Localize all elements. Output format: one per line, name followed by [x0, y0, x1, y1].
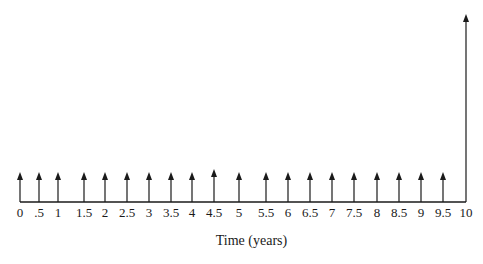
cash-flow-arrow [168, 172, 174, 202]
cash-flow-arrow [374, 172, 380, 202]
cash-flow-arrow [440, 172, 446, 202]
tick-label: 7.5 [346, 205, 362, 221]
cash-flow-arrow [285, 172, 291, 202]
cash-flow-arrow [236, 172, 242, 202]
tick-label: 2.5 [119, 205, 135, 221]
arrow-head-icon [396, 172, 402, 180]
cash-flow-arrow [102, 172, 108, 202]
cash-flow-arrow [418, 172, 424, 202]
cash-flow-arrow [36, 172, 42, 202]
tick-label: 0 [17, 205, 24, 221]
tick-label: 9 [418, 205, 425, 221]
cash-flow-arrow [146, 172, 152, 202]
arrow-head-icon [55, 172, 61, 180]
cash-flow-svg [0, 0, 483, 264]
arrow-head-icon [36, 172, 42, 180]
arrow-head-icon [211, 169, 217, 177]
arrow-head-icon [463, 14, 469, 22]
arrow-head-icon [146, 172, 152, 180]
arrow-head-icon [17, 172, 23, 180]
tick-label: 2 [102, 205, 109, 221]
cash-flow-arrow [17, 172, 23, 202]
arrow-head-icon [189, 172, 195, 180]
arrow-head-icon [263, 172, 269, 180]
tick-label: 3 [146, 205, 153, 221]
cash-flow-diagram: 0.511.522.533.544.555.566.577.588.599.51… [0, 0, 483, 264]
tick-label: 7 [329, 205, 336, 221]
cash-flow-arrow [263, 172, 269, 202]
arrow-head-icon [374, 172, 380, 180]
cash-flow-arrow [211, 169, 217, 202]
tick-label: .5 [34, 205, 44, 221]
arrow-head-icon [124, 172, 130, 180]
cash-flow-arrow [396, 172, 402, 202]
tick-label: 6 [285, 205, 292, 221]
tick-label: 3.5 [163, 205, 179, 221]
tick-label: 1 [55, 205, 62, 221]
cash-flow-arrow [463, 14, 469, 202]
arrow-head-icon [102, 172, 108, 180]
tick-label: 5.5 [258, 205, 274, 221]
tick-label: 1.5 [76, 205, 92, 221]
arrow-head-icon [81, 172, 87, 180]
arrow-head-icon [351, 172, 357, 180]
tick-label: 5 [236, 205, 243, 221]
axis-title: Time (years) [0, 233, 483, 249]
cash-flow-arrow [81, 172, 87, 202]
cash-flow-arrow [124, 172, 130, 202]
arrow-head-icon [285, 172, 291, 180]
arrow-head-icon [418, 172, 424, 180]
arrow-head-icon [168, 172, 174, 180]
tick-label: 4.5 [206, 205, 222, 221]
arrow-head-icon [440, 172, 446, 180]
cash-flow-arrow [55, 172, 61, 202]
tick-label: 6.5 [302, 205, 318, 221]
tick-label: 8.5 [391, 205, 407, 221]
tick-label: 8 [374, 205, 381, 221]
tick-label: 9.5 [435, 205, 451, 221]
arrow-head-icon [329, 172, 335, 180]
cash-flow-arrow [189, 172, 195, 202]
cash-flow-arrows [17, 14, 469, 202]
tick-label: 4 [189, 205, 196, 221]
cash-flow-arrow [329, 172, 335, 202]
tick-label: 10 [460, 205, 473, 221]
cash-flow-arrow [307, 172, 313, 202]
arrow-head-icon [307, 172, 313, 180]
arrow-head-icon [236, 172, 242, 180]
cash-flow-arrow [351, 172, 357, 202]
